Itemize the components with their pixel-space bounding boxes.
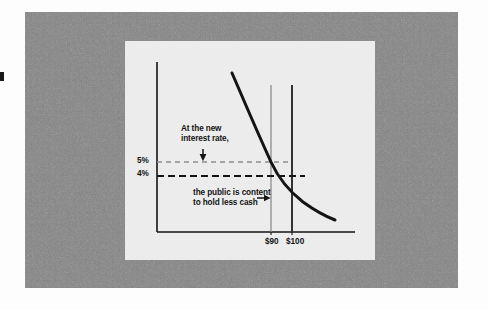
chart-plot [125, 41, 375, 260]
annotation-less-cash-line2: to hold less cash [193, 198, 271, 208]
xtick-label-100: $100 [286, 237, 304, 246]
ytick-label-5: 5% [137, 156, 149, 165]
annotation-new-rate-line1: At the new [181, 124, 229, 134]
annotation-less-cash-line1: the public is content [193, 188, 271, 198]
annotation-new-rate-line2: interest rate, [181, 134, 229, 144]
figure-root: At the new interest rate, the public is … [0, 0, 488, 310]
down-arrow-icon [200, 149, 207, 161]
annotation-new-interest-rate: At the new interest rate, [181, 124, 229, 143]
ytick-label-4: 4% [137, 169, 149, 178]
edge-registration-mark [0, 72, 4, 81]
annotation-less-cash: the public is content to hold less cash [193, 188, 271, 207]
xtick-label-90: $90 [265, 237, 279, 246]
